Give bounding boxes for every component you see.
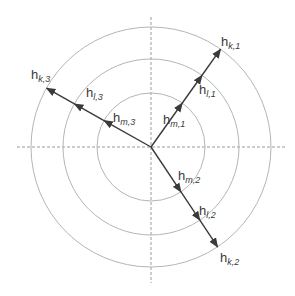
label-h_k2: hk,2: [220, 250, 239, 267]
polar-vector-diagram: hm,1hl,1hk,1hm,2hl,2hk,2hm,3hl,3hk,3: [0, 0, 295, 296]
label-h_k1: hk,1: [221, 34, 240, 51]
label-h_l2: hl,2: [199, 203, 216, 220]
vector-2: [151, 147, 218, 247]
diagram-canvas: hm,1hl,1hk,1hm,2hl,2hk,2hm,3hl,3hk,3: [0, 0, 295, 296]
arrow-segment: [151, 147, 181, 192]
arrow-segment: [200, 220, 218, 247]
arrow-segment: [181, 192, 200, 220]
arrow-segment: [202, 49, 221, 75]
vector-labels: hm,1hl,1hk,1hm,2hl,2hk,2hm,3hl,3hk,3: [31, 34, 240, 267]
arrow-segment: [47, 88, 75, 104]
axes: [17, 17, 285, 283]
vectors: [47, 49, 221, 247]
label-h_m3: hm,3: [113, 110, 135, 127]
label-h_l3: hl,3: [86, 85, 103, 102]
label-h_k3: hk,3: [31, 67, 50, 84]
arrow-segment: [74, 104, 104, 121]
label-h_m2: hm,2: [178, 168, 200, 185]
